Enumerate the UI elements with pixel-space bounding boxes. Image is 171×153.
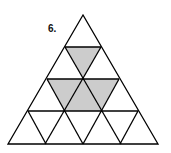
grid-lines: [8, 15, 158, 144]
shaded-triangle: [65, 47, 101, 79]
triangle-grid-figure: [0, 0, 171, 153]
